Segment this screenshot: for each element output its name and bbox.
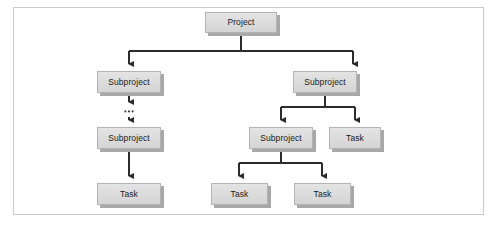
node-task-a1[interactable]: Task <box>97 183 161 205</box>
node-subproject-b[interactable]: Subproject <box>293 71 357 93</box>
node-project-label: Project <box>227 18 254 27</box>
node-subproject-b2[interactable]: Subproject <box>249 127 313 149</box>
node-task-b1-label: Task <box>346 134 364 143</box>
node-task-b2[interactable]: Task <box>211 183 268 205</box>
diagram-figure: Project Subproject Subproject Subproject… <box>0 0 498 228</box>
node-task-b3[interactable]: Task <box>294 183 351 205</box>
node-subproject-a-label: Subproject <box>108 78 150 87</box>
node-project[interactable]: Project <box>205 12 277 33</box>
node-task-a1-label: Task <box>120 190 138 199</box>
node-task-b3-label: Task <box>314 190 332 199</box>
node-subproject-a2-label: Subproject <box>108 134 150 143</box>
node-subproject-a2[interactable]: Subproject <box>97 127 161 149</box>
ellipsis-icon <box>125 111 134 113</box>
node-subproject-b-label: Subproject <box>304 78 346 87</box>
node-subproject-a[interactable]: Subproject <box>97 71 161 93</box>
node-task-b1[interactable]: Task <box>329 127 381 149</box>
node-task-b2-label: Task <box>231 190 249 199</box>
node-subproject-b2-label: Subproject <box>260 134 302 143</box>
